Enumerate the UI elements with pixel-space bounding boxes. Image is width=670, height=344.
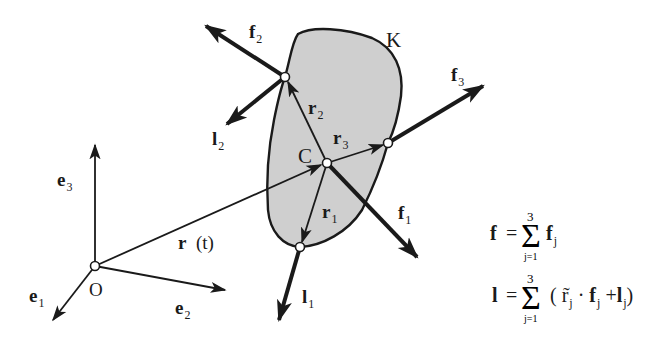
dot-operator: · xyxy=(578,284,585,306)
r1-name: r xyxy=(322,201,330,222)
sigma-symbol: Σ xyxy=(521,281,541,315)
r3-label: r3 xyxy=(333,128,348,151)
close-paren: ) xyxy=(627,284,634,306)
r-arg: (t) xyxy=(196,232,214,253)
e2-name: e xyxy=(175,297,183,318)
body-label: K xyxy=(386,30,401,51)
force-sum-equals: = xyxy=(506,223,517,243)
l1-label: l1 xyxy=(302,287,314,310)
plus-operator: + xyxy=(605,284,616,306)
l2-name: l xyxy=(212,128,217,149)
r3-sub: 3 xyxy=(342,138,348,152)
point-3-node xyxy=(384,139,393,148)
point-1-node xyxy=(296,243,305,252)
e2-sub: 2 xyxy=(184,308,190,322)
f3-label: f3 xyxy=(451,65,464,88)
force-sum-lhs: f xyxy=(490,223,497,243)
torque-sum-body: ( r̃j · fj +lj) xyxy=(550,285,633,309)
e1-label: e1 xyxy=(29,286,44,309)
r-tilde-sub: j xyxy=(569,296,572,310)
force-sum-term-name: f xyxy=(546,222,553,244)
r2-label: r2 xyxy=(308,98,323,121)
f2-name: f xyxy=(249,21,255,42)
e1-sub: 1 xyxy=(38,296,44,310)
force-sum-term: fj xyxy=(546,223,557,247)
f3-name: f xyxy=(451,64,457,85)
e2-axis-arrow xyxy=(95,266,225,290)
r-name: r xyxy=(178,232,186,253)
force-sum-equation: f = 3 Σ j=1 fj xyxy=(490,215,610,265)
l-term: l xyxy=(617,284,623,306)
r1-label: r1 xyxy=(322,202,337,225)
f-term-sub: j xyxy=(597,296,600,310)
f2-label: f2 xyxy=(249,22,262,45)
torque-sum-lhs: l xyxy=(492,285,498,305)
r3-name: r xyxy=(333,127,341,148)
position-vector-label: r (t) xyxy=(178,233,214,252)
f1-label: f1 xyxy=(398,203,411,226)
sigma-symbol: Σ xyxy=(521,219,541,253)
e3-name: e xyxy=(57,169,65,190)
e3-sub: 3 xyxy=(66,180,72,194)
torque-sum-equation: l = 3 Σ j=1 ( r̃j · fj +lj) xyxy=(490,277,660,327)
origin-label: O xyxy=(89,280,103,299)
r-tilde: r̃ xyxy=(562,284,569,306)
f1-sub: 1 xyxy=(405,213,411,227)
force-sum-lower: j=1 xyxy=(524,251,537,262)
f3-sub: 3 xyxy=(458,75,464,89)
l2-label: l2 xyxy=(212,129,224,152)
torque-sum-equals: = xyxy=(506,285,517,305)
f2-sub: 2 xyxy=(256,32,262,46)
f2-arrow xyxy=(206,26,285,77)
f1-name: f xyxy=(398,202,404,223)
r2-name: r xyxy=(308,97,316,118)
r1-sub: 1 xyxy=(331,212,337,226)
e1-name: e xyxy=(29,285,37,306)
open-paren: ( xyxy=(550,284,557,306)
center-node xyxy=(323,159,332,168)
l1-sub: 1 xyxy=(308,297,314,311)
origin-node xyxy=(91,262,100,271)
point-2-node xyxy=(281,73,290,82)
center-label: C xyxy=(298,146,312,167)
torque-sum-lower: j=1 xyxy=(524,313,537,324)
e2-label: e2 xyxy=(175,298,190,321)
force-sum-term-sub: j xyxy=(554,234,557,248)
e3-label: e3 xyxy=(57,170,72,193)
l2-sub: 2 xyxy=(218,139,224,153)
r2-sub: 2 xyxy=(317,108,323,122)
l1-arrow xyxy=(279,247,300,320)
f-term: f xyxy=(589,284,596,306)
l1-name: l xyxy=(302,286,307,307)
